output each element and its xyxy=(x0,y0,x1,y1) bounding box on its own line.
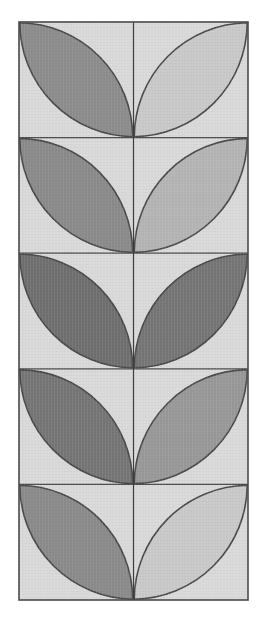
paper-texture-overlay xyxy=(19,22,248,600)
figure-root xyxy=(0,0,265,635)
leaf-pattern-figure xyxy=(0,0,265,635)
